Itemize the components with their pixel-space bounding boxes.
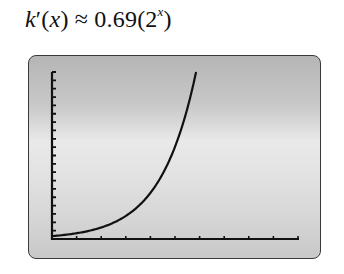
graph-plot bbox=[29, 56, 321, 259]
approx-expression: ≈ 0.69(2 bbox=[69, 6, 158, 32]
axes bbox=[52, 72, 299, 240]
function-name: k bbox=[25, 6, 36, 32]
close-paren: ) bbox=[60, 6, 68, 32]
open-paren: ( bbox=[41, 6, 49, 32]
exponent: x bbox=[158, 4, 164, 19]
end-paren: ) bbox=[164, 6, 172, 32]
function-curve bbox=[52, 73, 196, 236]
formula-heading: k′(x) ≈ 0.69(2x) bbox=[25, 6, 172, 33]
variable: x bbox=[50, 6, 61, 32]
calculator-screen bbox=[28, 55, 321, 259]
